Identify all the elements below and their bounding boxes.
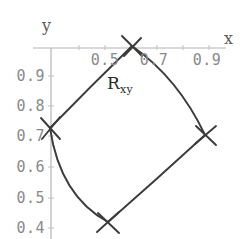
y-tick-label-1: 0.8 bbox=[16, 99, 45, 114]
x-tick-label-1: 0.7 bbox=[140, 53, 169, 68]
x-tick-label-2: 0.9 bbox=[193, 53, 222, 68]
plot-figure: y x 0.5 0.7 0.9 0.9 0.8 0.7 0.6 0.5 0.4 … bbox=[0, 0, 245, 239]
y-axis-label: y bbox=[42, 18, 51, 34]
y-tick-label-5: 0.4 bbox=[16, 221, 45, 236]
y-tick-label-3: 0.6 bbox=[16, 160, 45, 175]
x-axis-label: x bbox=[224, 31, 233, 47]
region-boundary-curve bbox=[50, 46, 205, 222]
region-annotation-subscript: xy bbox=[120, 83, 133, 96]
x-tick-label-0: 0.5 bbox=[91, 53, 120, 68]
y-tick-label-2: 0.7 bbox=[16, 129, 45, 144]
y-tick-label-4: 0.5 bbox=[16, 191, 45, 206]
y-tick-label-0: 0.9 bbox=[16, 69, 45, 84]
region-annotation-base: R bbox=[107, 73, 120, 93]
region-annotation-label: Rxy bbox=[107, 75, 133, 94]
